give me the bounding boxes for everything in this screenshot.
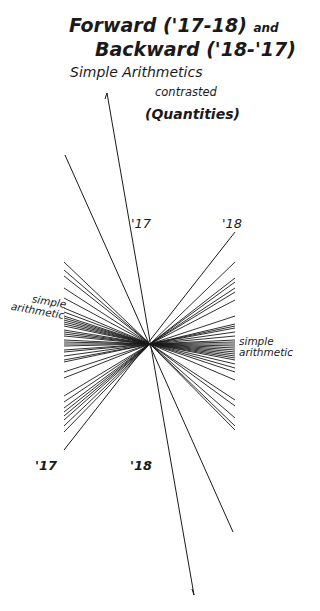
right-fan-line <box>150 262 235 344</box>
right-axis-label-arithmetic: arithmetic <box>239 347 293 358</box>
long-line <box>65 155 233 532</box>
arrow-tip-top <box>105 93 107 99</box>
label-17-top: '17 <box>131 216 151 231</box>
left-fan-line <box>64 344 150 408</box>
right-axis-label: simple arithmetic <box>239 336 293 358</box>
left-fan-line <box>64 326 150 344</box>
label-18-bottom: '18 <box>130 458 152 473</box>
left-fan-line <box>64 344 150 420</box>
label-18-top: '18 <box>222 216 242 231</box>
label-17-bottom: '17 <box>35 458 57 473</box>
right-fan-line <box>150 344 235 418</box>
